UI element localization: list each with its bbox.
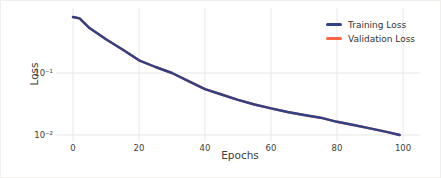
x-tick-label: 40 bbox=[200, 143, 211, 153]
x-axis-label: Epochs bbox=[221, 149, 259, 161]
validation-loss-line-icon bbox=[326, 37, 342, 40]
x-tick-label: 80 bbox=[332, 143, 343, 153]
x-tick-label: 0 bbox=[70, 143, 75, 153]
y-axis-label: Loss bbox=[28, 62, 40, 85]
y-tick-label: 10⁻² bbox=[34, 130, 53, 140]
legend-item-training-loss: Training Loss bbox=[326, 19, 415, 30]
x-tick-label: 100 bbox=[395, 143, 411, 153]
loss-chart-figure: 10⁻¹10⁻² 020406080100 Loss Epochs Traini… bbox=[0, 0, 441, 178]
legend-label-validation-loss: Validation Loss bbox=[348, 34, 415, 44]
x-tick-label: 20 bbox=[134, 143, 145, 153]
legend-label-training-loss: Training Loss bbox=[348, 20, 406, 30]
x-tick-label: 60 bbox=[266, 143, 277, 153]
training-loss-line-icon bbox=[326, 23, 342, 26]
legend: Training Loss Validation Loss bbox=[326, 19, 415, 44]
legend-item-validation-loss: Validation Loss bbox=[326, 33, 415, 44]
